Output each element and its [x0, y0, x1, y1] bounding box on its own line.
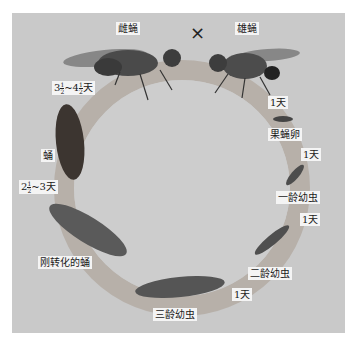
label-duration-pupa-to-adult: 312~412天 — [52, 81, 95, 95]
label-female-fly: 雌蝇 — [116, 22, 140, 35]
label-duration-larva3-to-pupa: 212~3天 — [19, 180, 58, 194]
egg-image — [273, 116, 293, 122]
label-male-fly: 雄蝇 — [235, 22, 259, 35]
label-duration-adult-to-egg: 1天 — [268, 96, 288, 109]
cross-symbol: × — [190, 24, 205, 42]
life-cycle-artwork — [0, 0, 355, 343]
label-prepupa: 刚转化的蛹 — [38, 256, 92, 269]
label-duration-larva1-to-larva2: 1天 — [300, 213, 320, 226]
ring-center — [74, 80, 290, 296]
label-larva-3: 三龄幼虫 — [153, 308, 197, 321]
label-duration-egg-to-larva1: 1天 — [301, 148, 321, 161]
label-larva-2: 二龄幼虫 — [248, 267, 292, 280]
label-pupa: 蛹 — [41, 149, 55, 162]
label-larva-1: 一龄幼虫 — [276, 191, 320, 204]
label-duration-larva2-to-larva3: 1天 — [232, 288, 252, 301]
label-egg: 果蝇卵 — [268, 128, 302, 141]
